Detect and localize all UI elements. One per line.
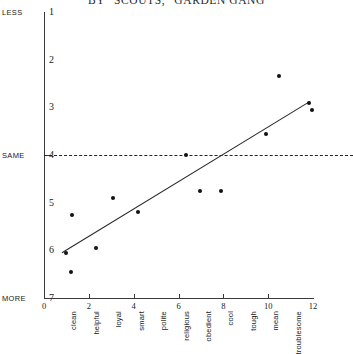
y-anchor-label-more: MORE: [2, 294, 26, 303]
reference-line-same: [44, 155, 353, 156]
category-label-troublesome: troublesome: [294, 311, 303, 354]
x-tick-mark: [179, 294, 180, 299]
x-tick-label: 8: [221, 301, 225, 311]
x-tick-label: 12: [309, 301, 318, 311]
category-label-obedient: obedient: [204, 311, 213, 341]
category-label-helpful: helpful: [92, 311, 101, 335]
x-tick-mark: [223, 294, 224, 299]
y-tick-label: 2: [36, 54, 54, 65]
category-label-tough: tough: [249, 311, 258, 331]
data-point-polite: [136, 210, 140, 214]
y-tick-label: 1: [36, 6, 54, 17]
data-point-cool: [219, 189, 223, 193]
x-tick-label: 2: [87, 301, 91, 311]
category-label-cool: cool: [226, 311, 235, 326]
category-label-religious: religious: [182, 311, 191, 341]
category-label-loyal: loyal: [114, 311, 123, 327]
data-point-obedient: [198, 189, 202, 193]
data-point-religious: [184, 153, 188, 157]
x-tick-label: 4: [132, 301, 136, 311]
data-point-loyal: [94, 246, 98, 250]
x-tick-mark: [134, 294, 135, 299]
y-anchor-label-less: LESS: [2, 8, 23, 17]
data-point-troublesome: [310, 108, 314, 112]
data-point-helpful: [69, 270, 73, 274]
x-tick-label: 10: [264, 301, 273, 311]
category-label-smart: smart: [137, 311, 146, 331]
data-point-smart: [111, 196, 115, 200]
data-point-clean: [64, 251, 68, 255]
x-tick-mark: [89, 294, 90, 299]
y-tick-label: 3: [36, 101, 54, 112]
y-tick-label: 5: [36, 197, 54, 208]
x-tick-label: 6: [176, 301, 180, 311]
category-label-mean: mean: [271, 311, 280, 331]
x-tick-mark: [268, 294, 269, 299]
data-point-mean: [277, 74, 281, 78]
x-tick-label: 0: [42, 301, 46, 311]
data-point-helpful: [70, 213, 74, 217]
category-label-clean: clean: [69, 311, 78, 330]
y-tick-label: 6: [36, 244, 54, 255]
data-point-troublesome: [307, 101, 311, 105]
y-anchor-label-same: SAME: [2, 151, 25, 160]
category-label-polite: polite: [159, 311, 168, 330]
data-point-tough: [264, 132, 268, 136]
